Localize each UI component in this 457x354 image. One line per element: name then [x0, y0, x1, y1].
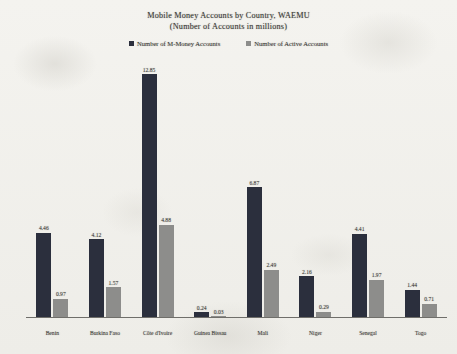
- bar: 1.97: [369, 280, 384, 317]
- bar: 4.46: [36, 233, 51, 317]
- bar: 4.12: [89, 239, 104, 317]
- x-axis-tick-label: Togo: [394, 330, 447, 336]
- bar-value-label: 0.97: [56, 291, 66, 297]
- bar: 1.57: [106, 287, 121, 317]
- bar: 4.88: [159, 225, 174, 317]
- bar: 2.49: [264, 270, 279, 317]
- bar: 0.97: [53, 299, 68, 317]
- legend-label: Number of Active Accounts: [254, 40, 328, 47]
- bar-value-label: 1.97: [372, 272, 382, 278]
- bar: 6.87: [247, 187, 262, 317]
- chart-title: Mobile Money Accounts by Country, WAEMU: [0, 11, 457, 20]
- bar-chart: Mobile Money Accounts by Country, WAEMU …: [0, 0, 457, 354]
- legend-item-active-accounts: Number of Active Accounts: [246, 40, 328, 47]
- bar-value-label: 12.85: [143, 67, 156, 73]
- bar-value-label: 1.57: [109, 280, 119, 286]
- bar-group: 6.872.49: [237, 62, 290, 317]
- bar: 1.44: [405, 290, 420, 317]
- bar-value-label: 2.16: [302, 269, 312, 275]
- bar: 0.71: [422, 304, 437, 317]
- bar: 12.85: [142, 74, 157, 317]
- x-axis-tick-label: Côte d'Ivoire: [131, 330, 184, 336]
- plot-area: 4.460.974.121.5712.854.880.240.036.872.4…: [26, 62, 447, 318]
- bar-value-label: 6.87: [249, 180, 259, 186]
- bar-value-label: 0.03: [214, 309, 224, 315]
- chart-legend: Number of M-Money Accounts Number of Act…: [0, 40, 457, 47]
- bar-group: 2.160.29: [289, 62, 342, 317]
- bar-value-label: 0.24: [197, 305, 207, 311]
- bar: 2.16: [299, 276, 314, 317]
- x-axis-tick-label: Guinea Bissau: [184, 330, 237, 336]
- bar-value-label: 2.49: [266, 262, 276, 268]
- x-axis-tick-label: Mali: [237, 330, 290, 336]
- bar-value-label: 1.44: [407, 282, 417, 288]
- x-axis-tick-label: Burkina Faso: [79, 330, 132, 336]
- chart-subtitle: (Number of Accounts in millions): [0, 22, 457, 31]
- legend-item-m-money-accounts: Number of M-Money Accounts: [129, 40, 220, 47]
- x-axis-labels: BeninBurkina FasoCôte d'IvoireGuinea Bis…: [26, 330, 447, 336]
- bar-value-label: 4.12: [92, 232, 102, 238]
- bar-group: 4.121.57: [79, 62, 132, 317]
- bar-value-label: 0.29: [319, 304, 329, 310]
- x-axis-tick-label: Benin: [26, 330, 79, 336]
- bar-group: 1.440.71: [394, 62, 447, 317]
- bar-value-label: 4.41: [355, 226, 365, 232]
- bar-groups: 4.460.974.121.5712.854.880.240.036.872.4…: [26, 62, 447, 317]
- bar-group: 4.411.97: [342, 62, 395, 317]
- x-axis-line: [26, 317, 447, 318]
- bar-group: 4.460.97: [26, 62, 79, 317]
- legend-swatch-icon: [246, 41, 251, 46]
- bar-group: 12.854.88: [131, 62, 184, 317]
- bar: 4.41: [352, 234, 367, 317]
- bar-value-label: 4.46: [39, 225, 49, 231]
- bar-value-label: 4.88: [161, 217, 171, 223]
- x-axis-tick-label: Niger: [289, 330, 342, 336]
- legend-swatch-icon: [129, 41, 134, 46]
- x-axis-tick-label: Senegal: [342, 330, 395, 336]
- legend-label: Number of M-Money Accounts: [137, 40, 220, 47]
- bar-group: 0.240.03: [184, 62, 237, 317]
- bar-value-label: 0.71: [424, 296, 434, 302]
